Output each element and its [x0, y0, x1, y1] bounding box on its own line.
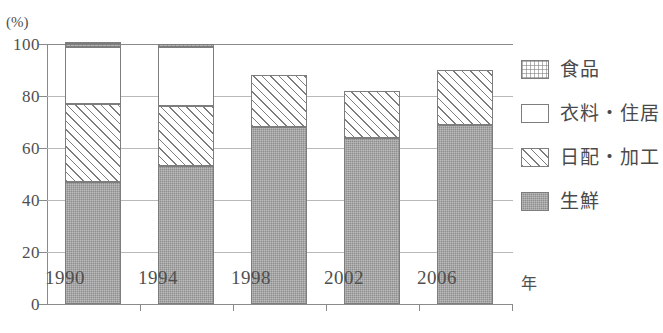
bar-seg-1990-cloth[interactable] — [65, 47, 121, 104]
legend-label-daily-processed: 日配・加工 — [560, 148, 660, 167]
bar-seg-2002-daily[interactable] — [344, 91, 400, 138]
legend-item-daily-processed[interactable]: 日配・加工 — [521, 144, 660, 170]
bar-group-1998[interactable] — [251, 44, 307, 304]
y-tick-label-0: 0 — [6, 296, 40, 313]
x-tick-3 — [326, 304, 327, 311]
y-tick-label-40: 40 — [6, 192, 40, 209]
y-tick-40 — [39, 200, 47, 201]
y-tick-label-80: 80 — [6, 88, 40, 105]
legend-swatch-clothing-housing-icon — [521, 104, 549, 123]
bar-seg-1990-daily[interactable] — [65, 104, 121, 182]
bar-seg-1998-daily[interactable] — [251, 75, 307, 127]
chart-page: —————— ——— ———— (%) 100 80 60 40 20 0 — [0, 0, 663, 333]
legend-swatch-food-icon — [521, 60, 549, 79]
x-tick-2 — [233, 304, 234, 311]
bar-seg-2006-daily[interactable] — [437, 70, 493, 125]
y-tick-0 — [39, 304, 47, 305]
legend-label-clothing-housing: 衣料・住居 — [560, 104, 660, 123]
legend-label-food: 食品 — [560, 60, 600, 79]
x-tick-label-2006: 2006 — [392, 268, 482, 288]
y-tick-20 — [39, 252, 47, 253]
bar-seg-1994-cloth[interactable] — [158, 47, 214, 107]
legend-item-clothing-housing[interactable]: 衣料・住居 — [521, 100, 660, 126]
bar-group-2006[interactable] — [437, 44, 493, 304]
bar-group-2002[interactable] — [344, 44, 400, 304]
x-tick-label-1998: 1998 — [206, 268, 296, 288]
legend-swatch-daily-processed-icon — [521, 148, 549, 167]
bar-group-1994[interactable] — [158, 44, 214, 304]
legend-item-food[interactable]: 食品 — [521, 56, 600, 82]
x-axis-unit-label: 年 — [521, 270, 537, 294]
artifact-fragment-a: —————— — [190, 0, 274, 6]
x-tick-label-1994: 1994 — [113, 268, 203, 288]
legend-item-fresh[interactable]: 生鮮 — [521, 188, 600, 214]
bar-seg-1994-daily[interactable] — [158, 106, 214, 166]
x-tick-1 — [140, 304, 141, 311]
y-tick-label-60: 60 — [6, 140, 40, 157]
bar-group-1990[interactable] — [65, 44, 121, 304]
legend-swatch-fresh-icon — [521, 192, 549, 211]
y-axis-line — [47, 44, 48, 304]
legend-label-fresh: 生鮮 — [560, 192, 600, 211]
x-tick-4 — [419, 304, 420, 311]
x-tick-label-2002: 2002 — [299, 268, 389, 288]
x-tick-label-1990: 1990 — [20, 268, 110, 288]
cropped-title-artifact: —————— ——— ———— — [0, 0, 663, 6]
y-tick-100 — [39, 44, 47, 45]
y-tick-80 — [39, 96, 47, 97]
plot-area — [47, 44, 513, 304]
y-tick-label-100: 100 — [6, 36, 40, 53]
y-tick-60 — [39, 148, 47, 149]
x-axis-line — [47, 304, 513, 305]
y-axis-unit-label: (%) — [6, 14, 29, 31]
artifact-fragment-b: ——— ———— — [395, 0, 498, 6]
x-tick-5 — [512, 304, 513, 311]
y-tick-label-20: 20 — [6, 244, 40, 261]
